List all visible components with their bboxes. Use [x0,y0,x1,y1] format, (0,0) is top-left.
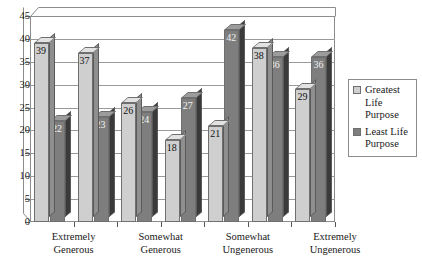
bar-value-label: 26 [123,106,133,116]
bar-value-label: 42 [226,33,236,43]
bar-front-face [295,89,310,222]
bar-side-face [326,47,332,217]
bar-side-face [239,20,245,217]
x-tick-mark [291,222,292,227]
bar: 21 [208,126,223,222]
legend-swatch [353,86,361,94]
bar-side-face [267,38,273,217]
category-label-line: Extremely [283,231,387,244]
x-tick-mark [74,222,75,227]
bar-side-face [152,102,158,217]
x-tick-mark [335,222,336,227]
bar-front-face [208,126,223,222]
legend-label: Least LifePurpose [365,126,408,151]
bar-side-face [136,93,142,217]
legend-label-line: Greatest [365,84,400,97]
bars-layer: 3922372326241827214238362936 [30,16,335,222]
x-tick-mark [117,222,118,227]
bar: 26 [121,103,136,222]
bar-value-label: 39 [36,46,46,56]
bar-value-label: 37 [80,56,90,66]
bar: 38 [252,48,267,222]
bar: 37 [78,53,93,222]
legend-swatch [353,128,361,136]
category-label: ExtremelyUngenerous [283,231,387,256]
legend-label-line: Life [365,97,400,110]
x-tick-mark [161,222,162,227]
bar-chart: 454035302520151050 392237232624182721423… [0,0,422,263]
bar-value-label: 21 [210,129,220,139]
bar: 18 [165,140,180,222]
bar-front-face [252,48,267,222]
bar-side-face [310,79,316,217]
bar-side-face [223,116,229,217]
bar-value-label: 27 [183,101,193,111]
bar-value-label: 36 [313,60,323,70]
x-tick-mark [204,222,205,227]
bar-side-face [196,88,202,217]
legend-label: GreatestLifePurpose [365,84,400,122]
legend-item[interactable]: GreatestLifePurpose [353,84,413,122]
bar-value-label: 18 [167,143,177,153]
bar: 29 [295,89,310,222]
bar-side-face [180,130,186,217]
y-tick-mark [25,222,30,223]
legend: GreatestLifePurposeLeast LifePurpose [348,79,417,157]
category-label-line: Ungenerous [283,244,387,257]
legend-label-line: Purpose [365,109,400,122]
bar-side-face [93,43,99,217]
legend-item[interactable]: Least LifePurpose [353,126,413,151]
bar-front-face [121,103,136,222]
bar-value-label: 29 [297,92,307,102]
bar-side-face [49,33,55,217]
legend-label-line: Least Life [365,126,408,139]
bar-side-face [109,107,115,217]
bar-side-face [283,47,289,217]
bar-side-face [65,111,71,217]
bar-front-face [78,53,93,222]
bar: 39 [34,43,49,222]
x-tick-mark [248,222,249,227]
bar-value-label: 38 [254,51,264,61]
bar-front-face [34,43,49,222]
y-axis: 454035302520151050 [0,0,30,232]
legend-label-line: Purpose [365,138,408,151]
